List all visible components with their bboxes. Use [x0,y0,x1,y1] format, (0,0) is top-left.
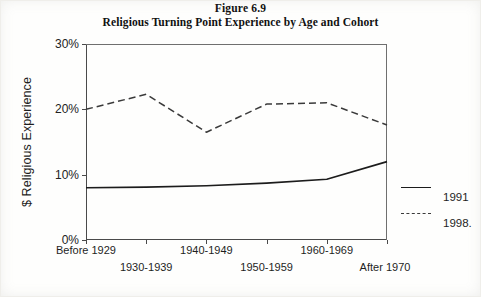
x-label-1960-1969: 1960-1969 [300,244,353,256]
legend-item-1991[interactable]: 1991 [399,182,479,208]
x-label-before-1929: Before 1929 [56,244,116,256]
x-label-1930-1939: 1930-1939 [120,261,173,273]
figure-number: Figure 6.9 [0,2,481,15]
y-tick-label-3: 30% [55,37,79,51]
figure-title-block: Figure 6.9 Religious Turning Point Exper… [0,2,481,29]
legend: 1991 1998. [399,182,479,244]
plot-area: 0% 10% 20% 30% [86,44,387,240]
legend-label-1998: 1998. [443,217,472,229]
y-tick-label-2: 20% [55,102,79,116]
x-label-1940-1949: 1940-1949 [180,244,233,256]
x-tick-5 [387,240,388,244]
series-canvas [86,44,387,240]
x-axis-labels: Before 1929 1930-1939 1940-1949 1950-195… [86,243,387,283]
legend-item-1998[interactable]: 1998. [399,208,479,234]
series-line-1998 [86,94,387,132]
x-label-1950-1959: 1950-1959 [240,261,293,273]
legend-label-1991: 1991 [443,191,469,203]
x-label-after-1970: After 1970 [360,261,411,273]
figure-title: Religious Turning Point Experience by Ag… [0,15,481,29]
series-line-1991 [86,162,387,188]
y-tick-label-1: 10% [55,168,79,182]
y-axis-title: $ Religious Experience [20,44,40,240]
figure-page: Figure 6.9 Religious Turning Point Exper… [0,0,481,297]
